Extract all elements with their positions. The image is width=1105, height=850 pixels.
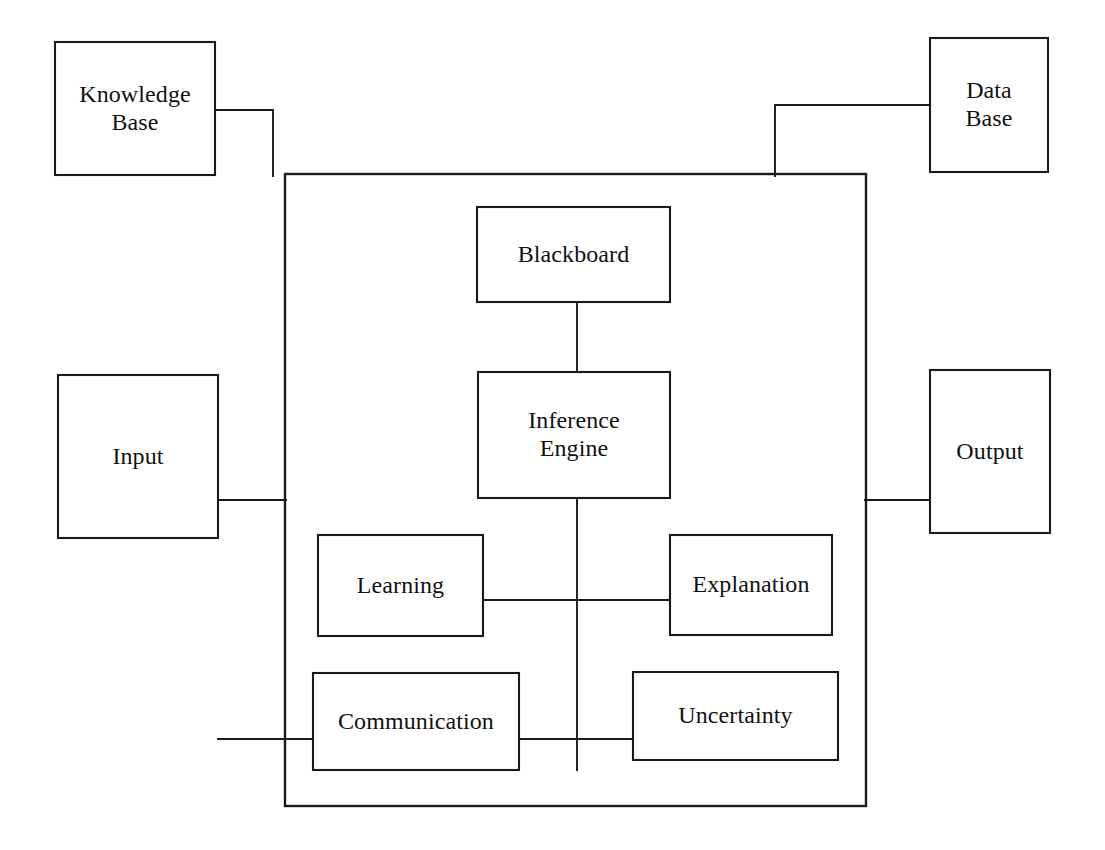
node-box-data-base[interactable] [930,38,1048,172]
node-box-learning[interactable] [318,535,483,636]
node-box-inference-engine[interactable] [478,372,670,498]
node-box-blackboard[interactable] [477,207,670,302]
node-box-knowledge-base[interactable] [55,42,215,175]
node-box-output[interactable] [930,370,1050,533]
connector-data-base-to-boundary [775,105,930,176]
node-box-uncertainty[interactable] [633,672,838,760]
node-box-input[interactable] [58,375,218,538]
diagram-svg [0,0,1105,850]
diagram-canvas: KnowledgeBaseDataBaseInputOutputBlackboa… [0,0,1105,850]
boxes-layer [55,38,1050,806]
node-box-explanation[interactable] [670,535,832,635]
connector-knowledge-base-to-boundary [215,110,273,176]
node-box-communication[interactable] [313,673,519,770]
